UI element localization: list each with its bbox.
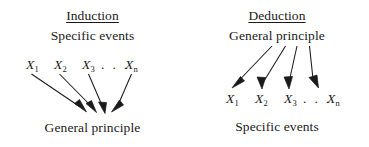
deduction-term-xn: Xn bbox=[327, 92, 340, 106]
induction-term-xn: Xn bbox=[125, 58, 138, 72]
induction-arrow-4-head bbox=[112, 100, 124, 112]
deduction-bottom-phrase: Specific events bbox=[185, 119, 369, 134]
deduction-arrow-3-shaft bbox=[290, 46, 298, 80]
deduction-arrow-3-head bbox=[284, 77, 293, 90]
induction-bottom-phrase: General principle bbox=[0, 120, 185, 135]
deduction-term-x1: X1 bbox=[226, 92, 239, 106]
deduction-term-x2: X2 bbox=[255, 92, 268, 106]
induction-arrow-4-shaft bbox=[119, 74, 132, 104]
induction-term-x3: X3 bbox=[82, 58, 95, 72]
induction-arrow-1-head bbox=[75, 100, 87, 113]
deduction-arrow-4-head bbox=[309, 75, 319, 88]
deduction-arrow-2-shaft bbox=[264, 46, 286, 81]
induction-deduction-diagram: Induction Specific events X1 X2 X3 . . .… bbox=[0, 0, 369, 147]
deduction-terms-row: X1 X2 X3 . . . Xn bbox=[185, 92, 369, 112]
deduction-title: Deduction bbox=[185, 8, 369, 23]
induction-terms-row: X1 X2 X3 . . . Xn bbox=[0, 58, 185, 78]
induction-term-x2: X2 bbox=[54, 58, 67, 72]
induction-arrow-3-head bbox=[99, 102, 107, 114]
deduction-arrow-4-shaft bbox=[310, 46, 314, 79]
induction-top-phrase: Specific events bbox=[0, 28, 185, 43]
deduction-top-phrase: General principle bbox=[185, 28, 369, 43]
induction-arrow-2-shaft bbox=[60, 74, 92, 106]
panel-deduction: Deduction General principle X1 X2 X3 bbox=[185, 0, 369, 147]
deduction-arrow-1-head bbox=[232, 77, 245, 89]
panel-induction: Induction Specific events X1 X2 X3 . . .… bbox=[0, 0, 185, 147]
deduction-arrow-1-shaft bbox=[239, 46, 273, 81]
induction-arrow-2-head bbox=[86, 101, 97, 113]
induction-term-x1: X1 bbox=[26, 58, 39, 72]
deduction-term-x3: X3 bbox=[284, 92, 297, 106]
deduction-arrow-2-head bbox=[257, 77, 266, 89]
induction-arrow-3-shaft bbox=[89, 74, 103, 107]
induction-title: Induction bbox=[0, 8, 185, 23]
induction-arrow-1-shaft bbox=[32, 74, 80, 107]
